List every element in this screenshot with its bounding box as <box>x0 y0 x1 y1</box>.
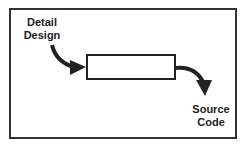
output-arrow-icon <box>176 68 212 96</box>
output-label-line2: Code <box>188 116 234 129</box>
output-label-line1: Source <box>188 103 234 116</box>
output-label: Source Code <box>188 103 234 129</box>
input-arrow-icon <box>52 45 86 75</box>
